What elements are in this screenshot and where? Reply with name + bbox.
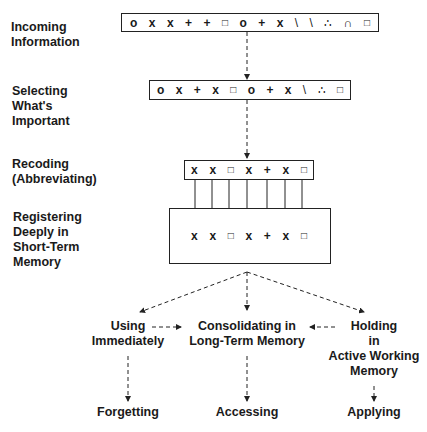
symbol: o bbox=[239, 16, 246, 30]
label-line: Immediately bbox=[88, 334, 168, 349]
symbol: + bbox=[264, 229, 271, 243]
label-line: Memory bbox=[322, 364, 426, 379]
label-line: Long-Term Memory bbox=[185, 334, 309, 349]
symbol: x bbox=[277, 16, 284, 30]
label-line: (Abbreviating) bbox=[12, 172, 97, 187]
holding-active-memory-label: Holding in Active Working Memory bbox=[322, 319, 426, 379]
symbol: \ bbox=[295, 16, 298, 30]
label-line: Consolidating in bbox=[185, 319, 309, 334]
symbol: x bbox=[149, 16, 156, 30]
symbol: x bbox=[245, 163, 252, 177]
symbol: x bbox=[212, 83, 219, 97]
symbol: x bbox=[176, 83, 183, 97]
label-line: Active Working bbox=[322, 349, 426, 364]
symbol: □ bbox=[228, 163, 234, 177]
label-line: Using bbox=[88, 319, 168, 334]
selecting-label: Selecting What's Important bbox=[12, 84, 70, 129]
accessing-label: Accessing bbox=[207, 405, 287, 420]
label-line: Selecting bbox=[12, 84, 70, 99]
symbol: o bbox=[248, 83, 255, 97]
recoding-label: Recoding (Abbreviating) bbox=[12, 157, 97, 187]
label-line: in bbox=[322, 334, 426, 349]
symbol: x bbox=[209, 163, 216, 177]
symbol: + bbox=[266, 83, 273, 97]
symbol: + bbox=[264, 163, 271, 177]
incoming-information-label: Incoming Information bbox=[11, 20, 80, 50]
label-line: Information bbox=[11, 35, 80, 50]
symbol: + bbox=[194, 83, 201, 97]
symbol: x bbox=[283, 229, 290, 243]
registering-symbol-row: x x □ x + x □ bbox=[191, 229, 307, 243]
label-line: What's bbox=[12, 99, 70, 114]
incoming-symbol-row: o x x + + □ o + x \ \ ∴ ∩ □ bbox=[130, 16, 370, 30]
label-line: Holding bbox=[322, 319, 426, 334]
symbol: □ bbox=[337, 83, 343, 97]
symbol: □ bbox=[301, 229, 307, 243]
symbol: □ bbox=[301, 163, 307, 177]
symbol: x bbox=[167, 16, 174, 30]
label-line: Registering bbox=[13, 210, 82, 225]
symbol: □ bbox=[364, 16, 370, 30]
symbol: ∩ bbox=[344, 16, 353, 30]
forgetting-label: Forgetting bbox=[88, 405, 168, 420]
label-line: Incoming bbox=[11, 20, 80, 35]
registering-label: Registering Deeply in Short-Term Memory bbox=[13, 210, 82, 270]
symbol: x bbox=[191, 163, 198, 177]
symbol: x bbox=[285, 83, 292, 97]
recoding-symbol-row: x x □ x + x □ bbox=[191, 163, 307, 177]
label-line: Recoding bbox=[12, 157, 97, 172]
symbol: ∴ bbox=[324, 16, 332, 30]
symbol: x bbox=[191, 229, 198, 243]
symbol: x bbox=[209, 229, 216, 243]
selecting-symbol-row: o x + x □ o + x \ ∴ □ bbox=[157, 83, 343, 97]
consolidating-label: Consolidating in Long-Term Memory bbox=[185, 319, 309, 349]
symbol: □ bbox=[222, 16, 228, 30]
symbol: ∴ bbox=[318, 83, 326, 97]
symbol: x bbox=[283, 163, 290, 177]
using-immediately-label: Using Immediately bbox=[88, 319, 168, 349]
symbol: + bbox=[258, 16, 265, 30]
applying-label: Applying bbox=[334, 405, 414, 420]
label-line: Deeply in bbox=[13, 225, 82, 240]
symbol: + bbox=[203, 16, 210, 30]
symbol: □ bbox=[230, 83, 236, 97]
symbol: x bbox=[245, 229, 252, 243]
symbol: \ bbox=[310, 16, 313, 30]
symbol: □ bbox=[228, 229, 234, 243]
label-line: Important bbox=[12, 114, 70, 129]
label-line: Memory bbox=[13, 255, 82, 270]
symbol: o bbox=[130, 16, 137, 30]
label-line: Short-Term bbox=[13, 240, 82, 255]
symbol: o bbox=[157, 83, 164, 97]
symbol: \ bbox=[303, 83, 306, 97]
symbol: + bbox=[185, 16, 192, 30]
